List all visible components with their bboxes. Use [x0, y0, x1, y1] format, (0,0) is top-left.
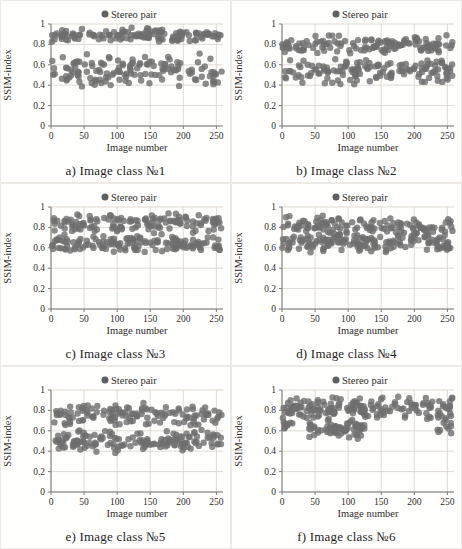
svg-text:200: 200	[176, 131, 191, 141]
chart-caption: f) Image class №6	[232, 529, 461, 545]
panel-image-class-2: 00.20.40.60.81050100150200250SSIM-indexI…	[231, 0, 462, 183]
svg-text:250: 250	[209, 314, 224, 324]
svg-text:150: 150	[143, 314, 158, 324]
svg-text:0.6: 0.6	[264, 243, 276, 253]
svg-text:0: 0	[280, 314, 285, 324]
svg-text:0.4: 0.4	[264, 263, 276, 273]
svg-text:0.8: 0.8	[33, 39, 45, 49]
scatter-chart-class-6: 00.20.40.60.81050100150200250SSIM-indexI…	[232, 372, 461, 528]
panel-image-class-1: 00.20.40.60.81050100150200250SSIM-indexI…	[0, 0, 231, 183]
scatter-points	[280, 394, 456, 443]
svg-text:0: 0	[271, 487, 276, 497]
panel-image-class-4: 00.20.40.60.81050100150200250SSIM-indexI…	[231, 183, 462, 366]
chart-caption: b) Image class №2	[232, 163, 461, 179]
svg-text:200: 200	[176, 497, 191, 507]
svg-text:0.6: 0.6	[33, 426, 45, 436]
chart-caption: e) Image class №5	[1, 529, 230, 545]
svg-text:0: 0	[40, 121, 45, 131]
svg-text:0.8: 0.8	[33, 222, 45, 232]
svg-text:0.6: 0.6	[33, 60, 45, 70]
legend-marker-icon	[333, 377, 340, 384]
svg-text:50: 50	[310, 314, 320, 324]
scatter-points	[279, 213, 455, 256]
svg-text:0: 0	[280, 131, 285, 141]
scatter-points	[51, 400, 225, 456]
svg-text:50: 50	[79, 497, 89, 507]
y-axis-title: SSIM-index	[233, 415, 244, 467]
legend-label: Stereo pair	[111, 9, 157, 20]
svg-text:1: 1	[271, 385, 276, 395]
svg-text:0.6: 0.6	[33, 243, 45, 253]
svg-text:50: 50	[310, 497, 320, 507]
legend-label: Stereo pair	[342, 375, 388, 386]
y-axis-title: SSIM-index	[2, 232, 13, 284]
legend-marker-icon	[102, 11, 109, 18]
svg-text:0.2: 0.2	[33, 284, 45, 294]
y-axis-title: SSIM-index	[233, 232, 244, 284]
svg-text:0.6: 0.6	[264, 426, 276, 436]
svg-text:100: 100	[110, 497, 125, 507]
panel-image-class-5: 00.20.40.60.81050100150200250SSIM-indexI…	[0, 366, 231, 549]
legend: Stereo pair	[333, 375, 389, 386]
svg-text:0: 0	[271, 121, 276, 131]
scatter-points	[49, 25, 225, 90]
svg-text:1: 1	[40, 385, 45, 395]
svg-text:100: 100	[110, 131, 125, 141]
svg-text:0: 0	[280, 497, 285, 507]
svg-text:200: 200	[407, 131, 422, 141]
svg-text:1: 1	[271, 19, 276, 29]
svg-text:150: 150	[374, 314, 389, 324]
svg-text:100: 100	[341, 131, 356, 141]
svg-text:0: 0	[49, 314, 54, 324]
svg-text:0.4: 0.4	[33, 80, 45, 90]
svg-text:0.6: 0.6	[264, 60, 276, 70]
svg-text:0: 0	[271, 304, 276, 314]
svg-text:0.2: 0.2	[264, 467, 276, 477]
svg-text:0.8: 0.8	[264, 405, 276, 415]
svg-text:0.2: 0.2	[264, 284, 276, 294]
y-axis-title: SSIM-index	[2, 415, 13, 467]
legend-marker-icon	[333, 11, 340, 18]
scatter-chart-class-5: 00.20.40.60.81050100150200250SSIM-indexI…	[1, 372, 230, 528]
legend: Stereo pair	[333, 9, 389, 20]
scatter-points	[279, 32, 455, 87]
y-axis-title: SSIM-index	[2, 49, 13, 101]
svg-text:200: 200	[407, 497, 422, 507]
svg-text:200: 200	[407, 314, 422, 324]
svg-text:50: 50	[310, 131, 320, 141]
svg-text:1: 1	[40, 202, 45, 212]
chart-caption: d) Image class №4	[232, 346, 461, 362]
legend: Stereo pair	[102, 375, 158, 386]
x-axis-title: Image number	[107, 142, 168, 153]
scatter-chart-class-2: 00.20.40.60.81050100150200250SSIM-indexI…	[232, 6, 461, 162]
y-axis-title: SSIM-index	[233, 49, 244, 101]
svg-text:0.8: 0.8	[264, 39, 276, 49]
legend-marker-icon	[102, 377, 109, 384]
svg-text:250: 250	[440, 497, 455, 507]
figure-ssim-grid: 00.20.40.60.81050100150200250SSIM-indexI…	[0, 0, 462, 549]
svg-text:50: 50	[79, 131, 89, 141]
x-axis-title: Image number	[338, 142, 399, 153]
svg-text:0.2: 0.2	[264, 101, 276, 111]
svg-text:250: 250	[209, 131, 224, 141]
svg-text:1: 1	[40, 19, 45, 29]
x-axis-title: Image number	[107, 325, 168, 336]
svg-text:150: 150	[374, 497, 389, 507]
svg-text:0.4: 0.4	[33, 446, 45, 456]
svg-text:150: 150	[374, 131, 389, 141]
svg-text:0.4: 0.4	[33, 263, 45, 273]
svg-text:250: 250	[440, 314, 455, 324]
svg-text:100: 100	[341, 314, 356, 324]
scatter-chart-class-4: 00.20.40.60.81050100150200250SSIM-indexI…	[232, 189, 461, 345]
legend-marker-icon	[102, 194, 109, 201]
svg-text:0.4: 0.4	[264, 446, 276, 456]
svg-text:100: 100	[341, 497, 356, 507]
svg-text:0.8: 0.8	[33, 405, 45, 415]
svg-text:0.4: 0.4	[264, 80, 276, 90]
svg-text:250: 250	[440, 131, 455, 141]
svg-text:0: 0	[40, 304, 45, 314]
svg-text:0.2: 0.2	[33, 467, 45, 477]
legend-marker-icon	[333, 194, 340, 201]
chart-caption: a) Image class №1	[1, 163, 230, 179]
legend: Stereo pair	[102, 192, 158, 203]
